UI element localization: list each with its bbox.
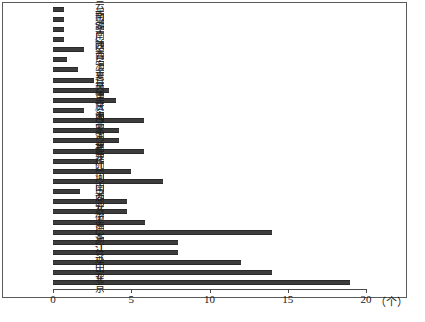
x-axis-tick-label: 10: [204, 293, 215, 305]
x-axis-unit-label: （个）: [375, 293, 408, 309]
x-axis-tick-label: 0: [50, 293, 56, 305]
bars-area: 云南新疆湖南广西陕西青海宁夏吉林天津重庆甘肃海南内蒙古河北福建黑龙江四川河南山西…: [53, 4, 403, 289]
y-axis-label: 北京: [53, 277, 103, 288]
figure-caption: [0, 312, 425, 322]
x-axis-tick-label: 20: [361, 293, 372, 305]
x-axis-tick-label: 5: [129, 293, 135, 305]
figure: 云南新疆湖南广西陕西青海宁夏吉林天津重庆甘肃海南内蒙古河北福建黑龙江四川河南山西…: [0, 0, 425, 322]
x-axis-tick-label: 15: [282, 293, 293, 305]
